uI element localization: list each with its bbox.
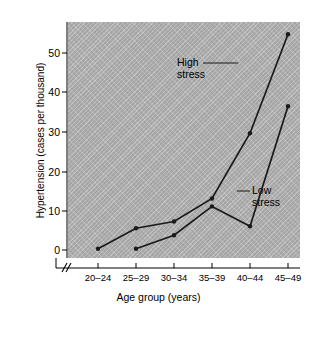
series-points-high-stress	[96, 32, 290, 251]
figure-caption: FIGURE 16.4	[0, 314, 317, 355]
series-line-low-stress	[136, 106, 288, 249]
series-points-low-stress	[134, 104, 290, 251]
chart-area: Hypertension (cases per thousand) 50 40 …	[0, 0, 317, 310]
series-line-high-stress	[98, 34, 288, 249]
figure-root: Hypertension (cases per thousand) 50 40 …	[0, 0, 317, 355]
x-axis-line	[56, 258, 300, 268]
chart-svg	[0, 0, 317, 310]
x-axis-ticks	[98, 263, 288, 268]
y-axis-ticks	[62, 53, 67, 250]
